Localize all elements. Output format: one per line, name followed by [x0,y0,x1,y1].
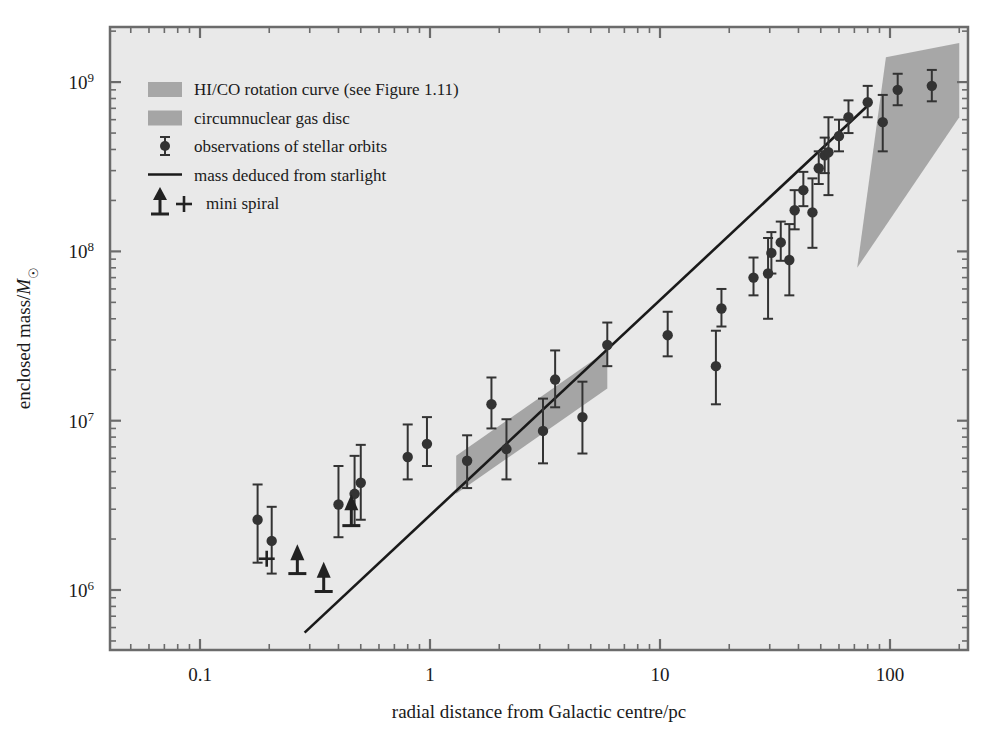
data-marker-circle [878,117,888,127]
data-marker-circle [807,207,817,217]
data-marker-circle [462,456,472,466]
data-marker-circle [501,444,511,454]
data-marker-circle [748,272,758,282]
data-marker-circle [892,85,902,95]
data-marker-circle [834,131,844,141]
data-marker-circle [784,255,794,265]
data-marker-circle [550,374,560,384]
data-marker-circle [333,499,343,509]
data-marker-circle [602,340,612,350]
data-marker-circle [356,478,366,488]
data-marker-circle [823,147,833,157]
y-axis-label-subscript: ☉ [26,267,41,279]
data-marker-circle [766,248,776,258]
data-marker-circle [662,330,672,340]
data-marker-circle [843,112,853,122]
x-tick-label: 100 [876,664,905,685]
legend-swatch-icon [148,82,182,97]
data-marker-circle [577,412,587,422]
y-axis-label-prefix: enclosed mass/ [13,294,34,409]
x-tick-label: 0.1 [188,664,212,685]
data-marker-circle [711,361,721,371]
data-marker-circle [814,163,824,173]
legend-item-label: HI/CO rotation curve (see Figure 1.11) [194,80,459,99]
figure-container: 0.1110100 106107108109 radial distance f… [0,0,989,737]
data-marker-circle [863,97,873,107]
legend-circle-marker-icon [160,141,170,151]
y-axis-label-symbol: M [13,278,34,296]
x-tick-label: 1 [425,664,435,685]
data-marker-circle [789,205,799,215]
legend-item-label: mini spiral [206,194,279,213]
legend-item: observations of stellar orbits [160,137,387,156]
x-axis-label: radial distance from Galactic centre/pc [392,701,686,722]
data-marker-circle [252,515,262,525]
x-tick-label: 10 [651,664,670,685]
legend-swatch-icon [148,111,182,126]
legend-item: HI/CO rotation curve (see Figure 1.11) [148,80,459,99]
data-marker-circle [486,399,496,409]
chart-svg: 0.1110100 106107108109 radial distance f… [0,0,989,737]
legend-item-label: mass deduced from starlight [194,166,386,185]
data-marker-circle [538,426,548,436]
data-marker-circle [267,536,277,546]
data-marker-circle [798,185,808,195]
data-marker-circle [716,303,726,313]
data-marker-circle [403,452,413,462]
legend-item: circumnuclear gas disc [148,109,350,128]
data-marker-circle [927,81,937,91]
legend-item-label: observations of stellar orbits [194,137,387,156]
legend-item-label: circumnuclear gas disc [194,109,350,128]
data-marker-circle [776,237,786,247]
data-marker-circle [422,439,432,449]
